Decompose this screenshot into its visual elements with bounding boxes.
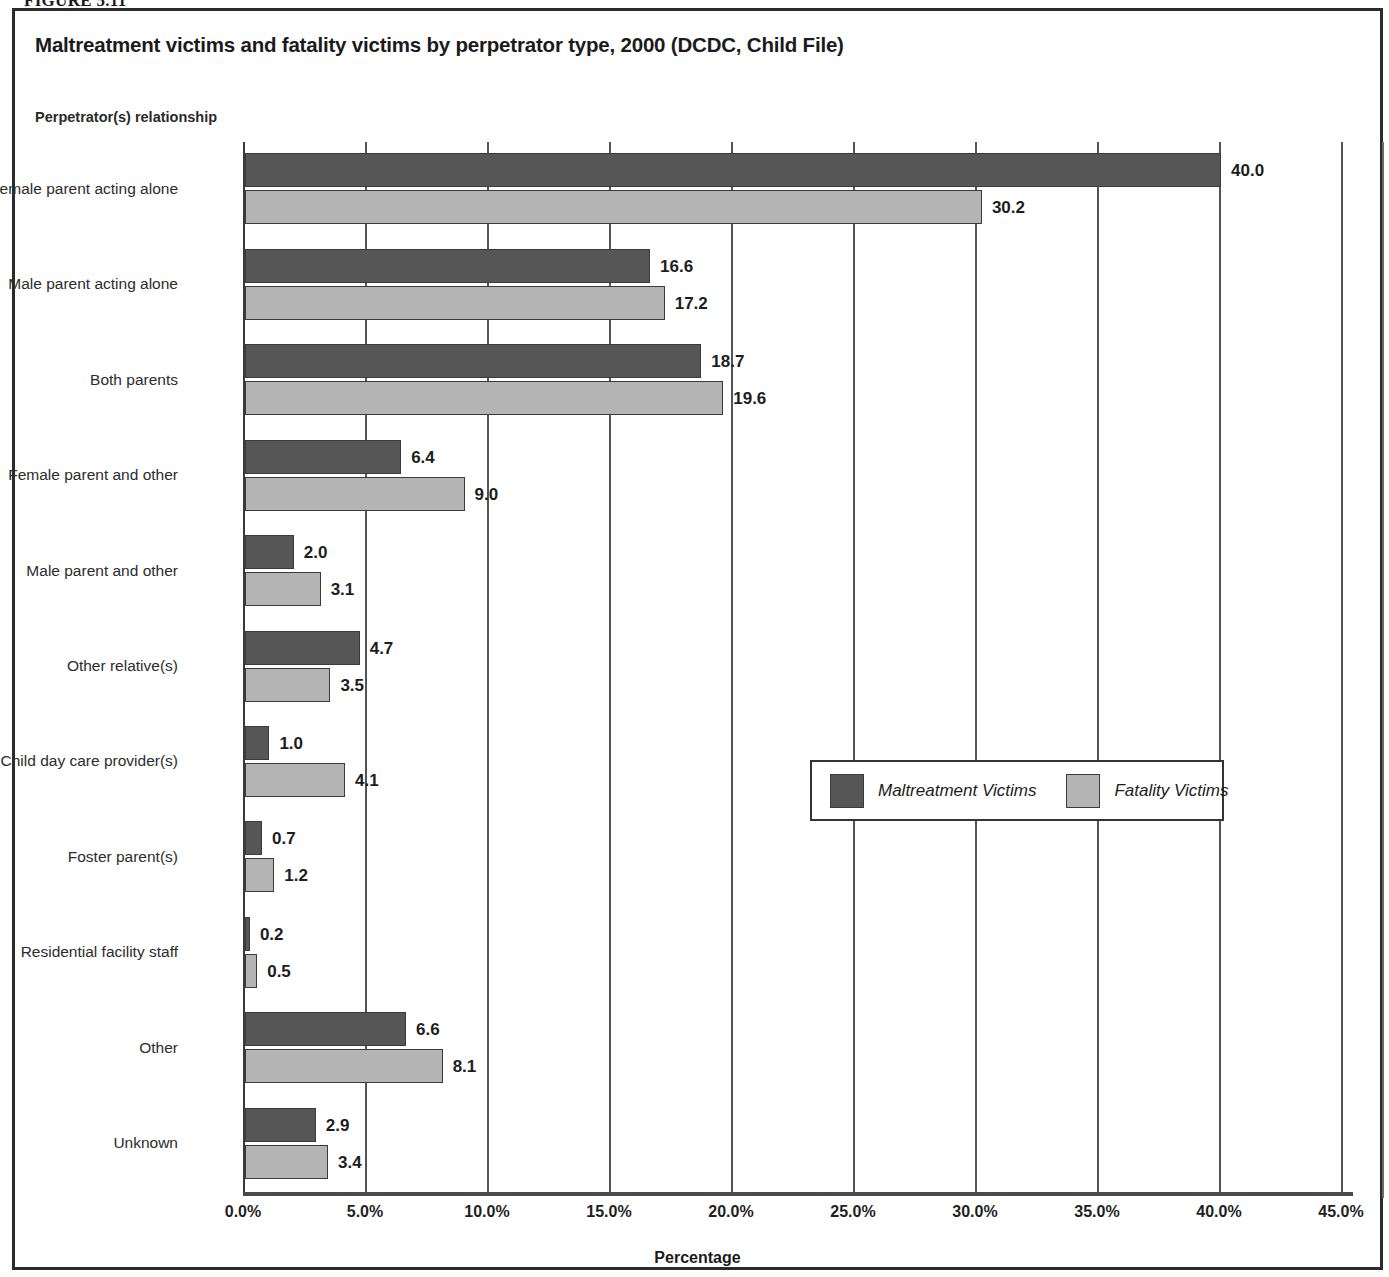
bar-value-label: 4.7: [370, 640, 394, 657]
bar-maltreatment: [245, 917, 250, 951]
category-label: Female parent and other: [8, 467, 178, 483]
gridline-20-0: [731, 142, 733, 1192]
bar-maltreatment: [245, 249, 650, 283]
bar-value-label: 18.7: [711, 353, 744, 370]
x-tick-label: 15.0%: [586, 1203, 631, 1221]
bar-fatality: [245, 668, 330, 702]
bar-fatality: [245, 286, 665, 320]
legend-label-fatality-victims: Fatality Victims: [1114, 781, 1228, 801]
category-label: Foster parent(s): [68, 849, 178, 865]
figure-page: FIGURE 5.11 Maltreatment victims and fat…: [0, 0, 1389, 1277]
x-tick-label: 40.0%: [1196, 1203, 1241, 1221]
figure-border-box: Maltreatment victims and fatality victim…: [12, 8, 1383, 1270]
bar-maltreatment: [245, 1012, 406, 1046]
bar-maltreatment: [245, 1108, 316, 1142]
x-axis-baseline: [243, 1192, 1353, 1196]
bar-value-label: 40.0: [1231, 162, 1264, 179]
bar-value-label: 1.2: [284, 867, 308, 884]
chart-legend: Maltreatment Victims Fatality Victims: [810, 760, 1224, 821]
plot-area: Female parent acting alone40.030.2Male p…: [243, 142, 1341, 1192]
category-label: Other: [139, 1040, 178, 1056]
x-tick-label: 20.0%: [708, 1203, 753, 1221]
x-tick-label: 5.0%: [347, 1203, 383, 1221]
bar-value-label: 3.1: [331, 581, 355, 598]
legend-swatch-maltreatment-victims: [830, 774, 864, 808]
bar-maltreatment: [245, 153, 1221, 187]
gridline-35-0: [1097, 142, 1099, 1192]
x-tick-label: 45.0%: [1318, 1203, 1363, 1221]
x-tick-label: 0.0%: [225, 1203, 261, 1221]
gridline-45-0: [1341, 142, 1343, 1192]
bar-fatality: [245, 572, 321, 606]
gridline-40-0: [1219, 142, 1221, 1192]
bar-value-label: 4.1: [355, 772, 379, 789]
legend-swatch-fatality-victims: [1066, 774, 1100, 808]
bar-value-label: 19.6: [733, 390, 766, 407]
bar-value-label: 0.7: [272, 830, 296, 847]
category-label: Female parent acting alone: [0, 181, 178, 197]
bar-maltreatment: [245, 344, 701, 378]
x-tick-label: 30.0%: [952, 1203, 997, 1221]
category-label: Unknown: [113, 1135, 178, 1151]
bar-value-label: 30.2: [992, 199, 1025, 216]
page-title: Maltreatment victims and fatality victim…: [35, 33, 844, 57]
bar-value-label: 6.6: [416, 1021, 440, 1038]
bar-value-label: 2.9: [326, 1117, 350, 1134]
category-label: Male parent acting alone: [8, 276, 178, 292]
bar-fatality: [245, 190, 982, 224]
bar-value-label: 16.6: [660, 258, 693, 275]
legend-item-maltreatment-victims: Maltreatment Victims: [812, 774, 1036, 808]
bar-value-label: 0.2: [260, 926, 284, 943]
bar-fatality: [245, 858, 274, 892]
category-label: Child day care provider(s): [1, 753, 178, 769]
bar-fatality: [245, 954, 257, 988]
bar-value-label: 6.4: [411, 449, 435, 466]
bar-maltreatment: [245, 821, 262, 855]
outer-right-rule: [1382, 142, 1384, 1198]
y-axis-title: Perpetrator(s) relationship: [35, 109, 217, 125]
bar-fatality: [245, 763, 345, 797]
legend-item-fatality-victims: Fatality Victims: [1036, 774, 1228, 808]
bar-value-label: 9.0: [475, 486, 499, 503]
bar-value-label: 1.0: [279, 735, 303, 752]
bar-fatality: [245, 477, 465, 511]
gridline-25-0: [853, 142, 855, 1192]
bar-value-label: 17.2: [675, 295, 708, 312]
bar-maltreatment: [245, 535, 294, 569]
bar-fatality: [245, 1049, 443, 1083]
legend-label-maltreatment-victims: Maltreatment Victims: [878, 781, 1036, 801]
bar-fatality: [245, 381, 723, 415]
x-tick-label: 25.0%: [830, 1203, 875, 1221]
bar-maltreatment: [245, 631, 360, 665]
x-axis-title: Percentage: [15, 1249, 1380, 1267]
bar-value-label: 3.4: [338, 1154, 362, 1171]
category-label: Other relative(s): [67, 658, 178, 674]
bar-maltreatment: [245, 726, 269, 760]
bar-maltreatment: [245, 440, 401, 474]
x-tick-label: 35.0%: [1074, 1203, 1119, 1221]
category-label: Residential facility staff: [21, 944, 178, 960]
category-label: Male parent and other: [26, 563, 178, 579]
category-label: Both parents: [90, 372, 178, 388]
bar-fatality: [245, 1145, 328, 1179]
gridline-30-0: [975, 142, 977, 1192]
bar-value-label: 8.1: [453, 1058, 477, 1075]
x-tick-label: 10.0%: [464, 1203, 509, 1221]
bar-value-label: 0.5: [267, 963, 291, 980]
bar-value-label: 2.0: [304, 544, 328, 561]
bar-value-label: 3.5: [340, 677, 364, 694]
